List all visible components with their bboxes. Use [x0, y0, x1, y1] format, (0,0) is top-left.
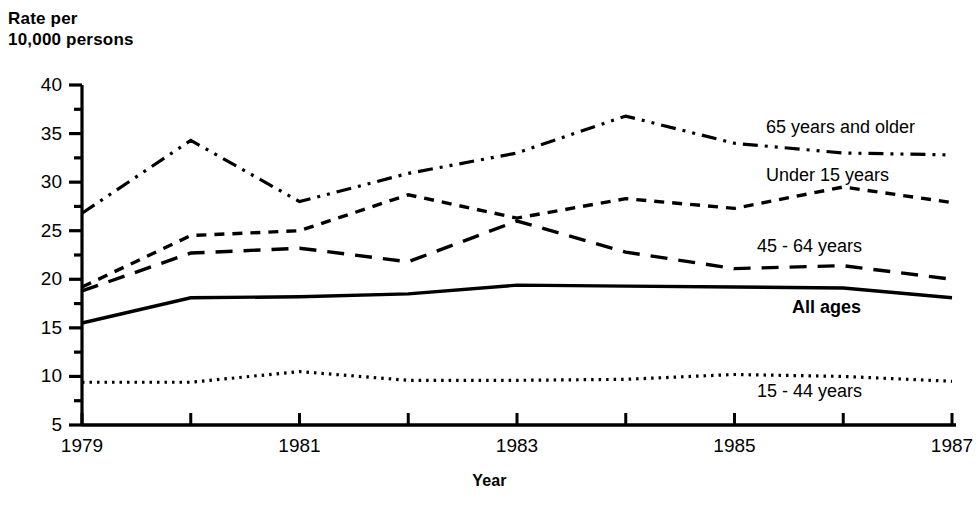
x-tick-label: 1979 — [42, 436, 122, 455]
x-tick-label: 1983 — [477, 436, 557, 455]
y-tick-label: 30 — [22, 172, 62, 191]
y-tick-label: 40 — [22, 75, 62, 94]
y-tick-label: 10 — [22, 366, 62, 385]
series-label-under-15-years: Under 15 years — [766, 166, 889, 184]
y-tick-label: 5 — [22, 415, 62, 434]
x-tick-label: 1981 — [260, 436, 340, 455]
series-label-15-44-years: 15 - 44 years — [757, 382, 862, 400]
x-tick-label: 1985 — [695, 436, 775, 455]
y-tick-label: 20 — [22, 269, 62, 288]
series-label-all-ages: All ages — [792, 298, 861, 316]
x-tick-label: 1987 — [912, 436, 979, 455]
y-tick-label: 15 — [22, 318, 62, 337]
line-chart: Rate per 10,000 persons 403530252015105 … — [0, 0, 979, 511]
series-label-45-64-years: 45 - 64 years — [757, 237, 862, 255]
x-axis-title: Year — [0, 470, 979, 491]
series-label-65-years-and-older: 65 years and older — [766, 118, 915, 136]
y-tick-label: 35 — [22, 124, 62, 143]
y-tick-label: 25 — [22, 221, 62, 240]
